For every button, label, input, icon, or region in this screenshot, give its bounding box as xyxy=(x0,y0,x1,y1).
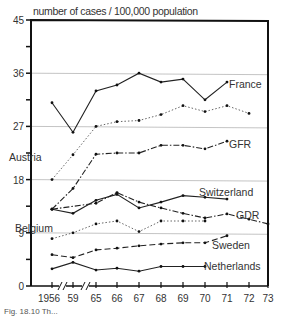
data-point xyxy=(226,212,229,215)
data-point xyxy=(160,243,163,246)
data-point xyxy=(116,220,119,223)
data-point xyxy=(116,152,119,155)
data-point xyxy=(204,241,207,244)
series-label-netherlands: Netherlands xyxy=(204,260,261,272)
data-point xyxy=(204,220,207,223)
data-point xyxy=(51,178,54,181)
data-point xyxy=(72,231,75,234)
data-point xyxy=(116,191,119,194)
y-tick-label: 18 xyxy=(13,175,25,186)
data-point xyxy=(138,230,141,233)
series-gfr xyxy=(51,140,229,211)
data-point xyxy=(204,147,207,150)
grid-line xyxy=(31,180,268,182)
data-point xyxy=(160,144,163,147)
data-point xyxy=(95,249,98,252)
data-point xyxy=(51,253,54,256)
data-point xyxy=(182,194,185,197)
data-point xyxy=(116,267,119,270)
grid-line xyxy=(31,233,268,235)
data-point xyxy=(160,113,163,116)
grid-line xyxy=(31,73,268,75)
series-label-gdr: GDR xyxy=(236,209,260,221)
data-point xyxy=(182,144,185,147)
data-point xyxy=(226,81,229,84)
data-point xyxy=(138,119,141,122)
data-point xyxy=(226,104,229,107)
data-point xyxy=(116,120,119,123)
y-tick-label: 0 xyxy=(18,281,24,292)
data-point xyxy=(138,72,141,75)
y-axis-label: number of cases / 100,000 population xyxy=(33,5,198,17)
data-point xyxy=(182,220,185,223)
data-point xyxy=(72,261,75,264)
x-tick-label: 68 xyxy=(155,293,167,304)
x-tick-label: 1956 xyxy=(38,293,61,304)
data-point xyxy=(72,212,75,215)
series-label-belgium: Belgium xyxy=(15,222,53,234)
data-point xyxy=(116,84,119,87)
data-point xyxy=(204,98,207,101)
x-tick-label: 65 xyxy=(90,293,102,304)
data-point xyxy=(138,244,141,247)
data-point xyxy=(95,202,98,205)
data-point xyxy=(204,110,207,113)
series-labels: FranceAustriaGFRSwitzerlandGDRBelgiumSwe… xyxy=(9,78,262,272)
data-point xyxy=(51,237,54,240)
data-point xyxy=(51,208,54,211)
data-point xyxy=(160,220,163,223)
grid-line xyxy=(31,126,268,128)
series-france xyxy=(51,72,229,134)
x-tick-label: 67 xyxy=(133,293,145,304)
x-tick-label: 71 xyxy=(221,293,233,304)
line-chart: 0918273645 195659656667686970717273 Fran… xyxy=(0,0,284,320)
series-label-switzerland: Switzerland xyxy=(199,186,253,198)
data-point xyxy=(182,241,185,244)
data-point xyxy=(95,223,98,226)
data-point xyxy=(95,269,98,272)
x-tick-label: 70 xyxy=(199,293,211,304)
data-point xyxy=(138,207,141,210)
series-belgium xyxy=(51,220,207,241)
series-label-austria: Austria xyxy=(9,151,42,163)
data-point xyxy=(138,152,141,155)
series-austria xyxy=(51,104,251,181)
x-tick-label: 66 xyxy=(111,293,123,304)
x-tick-label: 59 xyxy=(67,293,79,304)
data-point xyxy=(51,267,54,270)
y-tick-label: 45 xyxy=(13,15,25,26)
figure-caption: Fig. 18.10 Th... xyxy=(4,307,58,316)
data-point xyxy=(182,212,185,215)
data-point xyxy=(267,223,270,226)
series-sweden xyxy=(51,234,229,259)
series-label-sweden: Sweden xyxy=(212,239,250,251)
data-point xyxy=(226,198,229,201)
data-point xyxy=(182,104,185,107)
data-point xyxy=(160,207,163,210)
y-tick-label: 27 xyxy=(13,121,25,132)
data-point xyxy=(182,265,185,268)
data-point xyxy=(72,256,75,259)
y-tick-label: 36 xyxy=(13,68,25,79)
data-point xyxy=(95,90,98,93)
data-point xyxy=(160,81,163,84)
x-axis: 195659656667686970717273 xyxy=(31,282,274,304)
data-point xyxy=(116,247,119,250)
data-point xyxy=(51,101,54,104)
data-point xyxy=(138,270,141,273)
data-point xyxy=(72,187,75,190)
data-point xyxy=(182,78,185,81)
data-point xyxy=(138,201,141,204)
data-point xyxy=(95,199,98,202)
data-point xyxy=(72,131,75,134)
data-point xyxy=(226,234,229,237)
x-tick-label: 73 xyxy=(262,293,274,304)
x-tick-label: 69 xyxy=(177,293,189,304)
data-point xyxy=(160,201,163,204)
data-point xyxy=(95,153,98,156)
data-point xyxy=(204,217,207,220)
grid-lines xyxy=(31,73,268,234)
x-tick-label: 72 xyxy=(243,293,255,304)
series-netherlands xyxy=(51,261,207,273)
series-label-gfr: GFR xyxy=(229,138,252,150)
